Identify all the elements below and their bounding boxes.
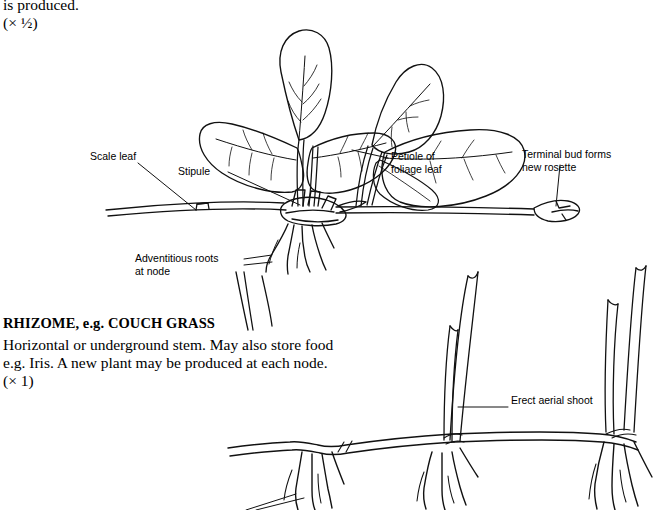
node-crown: [281, 190, 366, 226]
leaflet-left-lateral: [199, 122, 303, 192]
leaflet-upper-left: [280, 30, 332, 140]
figure-page: is produced. (× ½) Scale leaf Stipule Pe…: [0, 0, 665, 510]
adventitious-roots-strawberry: [266, 223, 334, 274]
aerial-shoot-left: [236, 272, 272, 330]
leaflet-right-lateral: [382, 130, 525, 207]
rhizome-stem: [228, 432, 638, 456]
aerial-shoot-right: [605, 266, 646, 434]
leaflet-right-lower: [373, 160, 438, 210]
aerial-shoot-middle: [444, 272, 478, 441]
terminal-bud: [534, 200, 580, 221]
leaflet-upper-right: [372, 64, 444, 153]
botanical-illustration: [0, 0, 665, 510]
rhizome-roots-middle: [417, 448, 478, 510]
rhizome-roots-left: [284, 452, 344, 510]
stolon-runner: [106, 202, 534, 216]
